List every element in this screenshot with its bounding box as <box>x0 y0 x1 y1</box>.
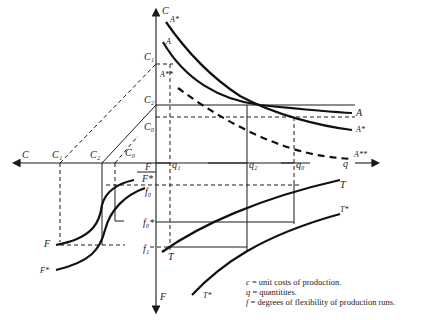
legend-line-q: q = quantitites. <box>246 287 297 297</box>
label-c2-horizontal: C₂ <box>90 149 101 160</box>
legend: c = unit costs of production. q = quanti… <box>246 277 395 307</box>
axis-label-q: q <box>343 158 348 169</box>
label-f1: f₁ <box>143 243 149 254</box>
four-quadrant-diagram: C F C q C₁ C₂ C₀ C₁ C₂ C₀ q₁ q₂ q₀ F F* … <box>0 0 427 320</box>
label-f: F <box>144 161 152 172</box>
legend-line-f: f = degrees of flexibility of production… <box>246 297 395 307</box>
label-c0-horizontal: C₀ <box>125 147 136 158</box>
curve-t <box>162 180 340 252</box>
label-curve-a-2star-right: A** <box>353 150 367 159</box>
curve-a-star <box>166 22 352 130</box>
curve-a-2star <box>178 88 352 159</box>
label-c1-horizontal: C₁ <box>52 149 62 160</box>
label-q2: q₂ <box>249 159 258 170</box>
axis-label-c-top: C <box>162 5 169 16</box>
label-f0-star: f₀* <box>143 217 154 228</box>
label-curve-a-star-right: A* <box>355 125 365 134</box>
axis-label-c-left: C <box>22 149 29 160</box>
label-c1-vertical: C₁ <box>144 51 154 62</box>
label-curve-f: F <box>43 238 51 249</box>
label-curve-a-top: A <box>165 37 171 46</box>
curve-f <box>56 180 134 245</box>
transfer-line-c1 <box>60 64 156 163</box>
label-curve-t-star-right: T* <box>340 205 348 214</box>
label-c2-vertical: C₂ <box>144 94 155 105</box>
label-curve-a-2star-top: A** <box>159 70 173 79</box>
label-curve-f-star: F* <box>39 266 49 275</box>
curve-f-star <box>56 188 145 270</box>
label-curve-t-star-lower: T* <box>203 291 211 300</box>
label-f-star: F* <box>141 173 153 184</box>
label-curve-a-right: A <box>355 107 363 118</box>
label-curve-t-lower: T <box>168 251 175 262</box>
label-q1: q₁ <box>172 159 180 170</box>
label-c0-vertical: C₀ <box>144 121 155 132</box>
label-curve-t-right: T <box>340 179 347 190</box>
axis-label-f-bottom: F <box>159 291 167 302</box>
label-curve-a-star-top: A* <box>169 15 179 24</box>
legend-line-c: c = unit costs of production. <box>246 277 341 287</box>
label-q0: q₀ <box>296 159 305 170</box>
label-f0: f₀ <box>145 186 152 197</box>
